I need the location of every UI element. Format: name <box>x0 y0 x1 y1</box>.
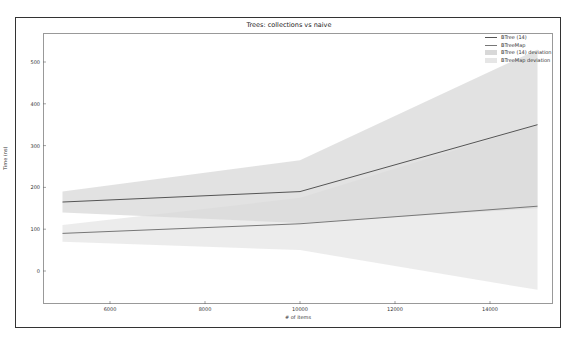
x-tick-label: 8000 <box>185 306 225 312</box>
deviation-band <box>63 49 538 222</box>
x-tick-label: 14000 <box>470 306 510 312</box>
x-tick-label: 12000 <box>375 306 415 312</box>
y-axis-label: Time (ns) <box>2 146 8 170</box>
x-axis-label: # of items <box>278 314 318 320</box>
legend-swatch <box>485 50 497 55</box>
legend-item: BTreeMap deviation <box>485 57 552 65</box>
deviation-bands <box>63 49 538 289</box>
y-tick-label: 0 <box>20 268 40 274</box>
legend-swatch <box>485 58 497 63</box>
y-tick-label: 200 <box>20 184 40 190</box>
legend-label: BTree (14) <box>501 34 527 42</box>
y-tick-label: 400 <box>20 101 40 107</box>
x-tick-label: 10000 <box>280 306 320 312</box>
legend-label: BTree (14) deviation <box>501 49 552 57</box>
legend-swatch <box>485 37 497 38</box>
y-tick-label: 300 <box>20 143 40 149</box>
legend-item: BTree (14) deviation <box>485 49 552 57</box>
y-tick-label: 500 <box>20 59 40 65</box>
legend-swatch <box>485 45 497 46</box>
legend-label: BTreeMap deviation <box>501 57 550 65</box>
legend-item: BTreeMap <box>485 42 552 50</box>
legend-item: BTree (14) <box>485 34 552 42</box>
legend-label: BTreeMap <box>501 42 525 50</box>
y-tick-label: 100 <box>20 226 40 232</box>
chart-legend: BTree (14)BTreeMapBTree (14) deviationBT… <box>485 34 552 64</box>
x-tick-label: 6000 <box>90 306 130 312</box>
